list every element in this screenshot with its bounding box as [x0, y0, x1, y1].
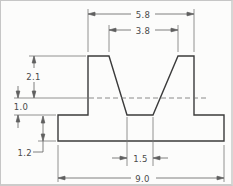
extension-lines [14, 9, 224, 182]
dim-label-top-inner: 3.8 [136, 26, 150, 36]
arrow-mid-height-up [16, 115, 20, 122]
arrow-top-inner-right [171, 28, 178, 32]
arrow-overall-left [58, 176, 65, 180]
dim-label-slot-width: 1.5 [133, 154, 147, 164]
arrow-upper-height-down [32, 91, 36, 98]
arrow-top-outer-left [88, 12, 95, 16]
arrow-mid-height-down [16, 91, 20, 98]
arrow-top-outer-right [187, 12, 194, 16]
arrow-slot-left [120, 156, 127, 160]
drawing-canvas: 5.8 3.8 2.1 1.0 1.2 1.5 9.0 [0, 0, 233, 186]
dim-label-mid-height: 1.0 [14, 102, 28, 112]
part-outline-path [58, 56, 224, 141]
dim-label-top-outer: 5.8 [136, 10, 150, 20]
dimension-lines [16, 12, 224, 180]
dim-label-upper-height: 2.1 [26, 72, 40, 82]
arrow-slot-right [153, 156, 160, 160]
arrow-upper-height-up [32, 56, 36, 63]
arrow-base-thickness-up [41, 116, 45, 123]
dim-label-base-thickness: 1.2 [18, 148, 32, 158]
engineering-drawing: 5.8 3.8 2.1 1.0 1.2 1.5 9.0 [1, 1, 232, 184]
arrow-top-inner-left [109, 28, 116, 32]
arrow-base-thickness-down [41, 134, 45, 141]
arrow-overall-right [217, 176, 224, 180]
dim-label-overall-width: 9.0 [135, 174, 149, 184]
